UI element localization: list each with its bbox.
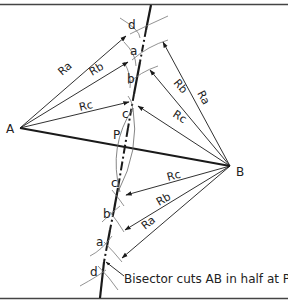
arc-label-top-b: b bbox=[127, 72, 135, 86]
arc-label-top-c: c bbox=[122, 107, 129, 121]
caption: Bisector cuts AB in half at P bbox=[124, 272, 288, 286]
radius-label-rc-b-lower: Rc bbox=[165, 168, 182, 184]
radius-label-rb-b-lower: Rb bbox=[154, 190, 173, 209]
radius-arrows-from-a bbox=[20, 36, 129, 128]
bisector-diagram: A B P Ra Rb Rc Ra Rb Rc Rc Rb Ra d a b c… bbox=[0, 0, 288, 304]
radius-label-ra-a: Ra bbox=[55, 59, 74, 78]
radius-label-rc-a: Rc bbox=[78, 98, 94, 114]
arc-label-bottom-c: c bbox=[111, 176, 118, 190]
arc-label-bottom-b: b bbox=[103, 207, 111, 221]
radius-label-rb-a: Rb bbox=[87, 60, 106, 79]
arc-label-bottom-d: d bbox=[90, 265, 98, 279]
arc-label-top-a: a bbox=[130, 44, 137, 58]
arc-label-top-d: d bbox=[128, 18, 136, 32]
caption-leader bbox=[106, 262, 124, 276]
radius-label-rc-b-upper: Rc bbox=[170, 108, 189, 126]
radius-label-rb-b-upper: Rb bbox=[171, 77, 190, 97]
arc-label-bottom-a: a bbox=[96, 235, 103, 249]
point-a-label: A bbox=[6, 122, 15, 136]
point-b-label: B bbox=[236, 165, 244, 179]
bisector-line bbox=[100, 5, 151, 298]
point-p-label: P bbox=[113, 128, 120, 142]
